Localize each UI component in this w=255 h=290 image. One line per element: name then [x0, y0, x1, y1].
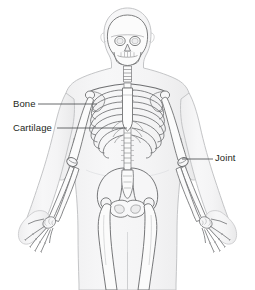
label-joint: Joint: [215, 153, 236, 163]
label-bone: Bone: [13, 99, 36, 109]
skeleton-diagram: Bone Cartilage Joint: [0, 0, 255, 290]
skeleton-illustration: [0, 0, 255, 290]
cervical-spine: [124, 66, 132, 82]
sternum: [123, 88, 133, 131]
label-cartilage: Cartilage: [13, 123, 52, 133]
